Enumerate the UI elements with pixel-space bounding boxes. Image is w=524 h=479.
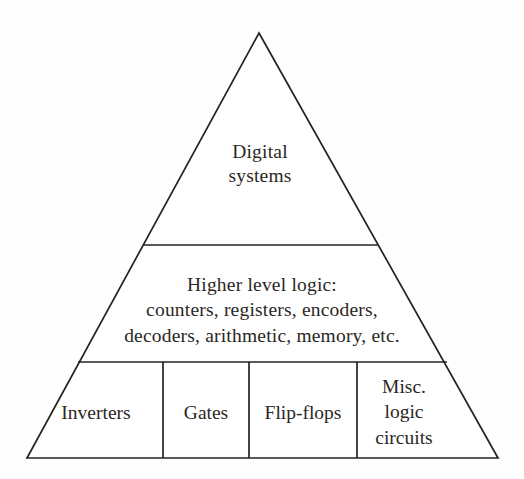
level-label-higher-level-logic: Higher level logic: counters, registers,… [42,272,482,348]
cell-label-gates: Gates [164,400,248,425]
level-label-digital-systems: Digital systems [150,140,370,188]
cell-label-flip-flops: Flip-flops [250,400,356,425]
diagram-canvas: Digital systems Higher level logic: coun… [0,0,524,479]
cell-label-inverters: Inverters [30,400,162,425]
cell-label-misc-logic-circuits: Misc. logic circuits [358,374,450,450]
